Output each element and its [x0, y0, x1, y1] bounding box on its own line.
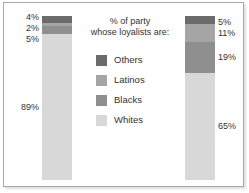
legend-swatch-latinos-icon	[96, 75, 107, 86]
bar-right-segment-blacks	[185, 42, 215, 73]
legend-swatch-whites-icon	[96, 115, 107, 126]
chart-title-line-2: whose loyalists are:	[78, 27, 182, 38]
legend-swatch-blacks-icon	[96, 95, 107, 106]
bar-left-label-whites: 89%	[21, 103, 39, 112]
bar-right-segment-whites	[185, 73, 215, 180]
chart-legend: Others Latinos Blacks Whites	[96, 50, 182, 130]
stacked-bar-right	[185, 16, 215, 180]
bar-left-segment-blacks	[42, 26, 72, 34]
legend-item-blacks[interactable]: Blacks	[96, 90, 182, 110]
legend-swatch-others-icon	[96, 55, 107, 66]
bar-right-label-blacks: 19%	[218, 53, 236, 62]
legend-label-latinos: Latinos	[114, 75, 145, 85]
bar-right-label-latinos: 11%	[218, 29, 235, 38]
bar-right-label-others: 5%	[218, 18, 231, 27]
bar-right-segment-latinos	[185, 24, 215, 42]
legend-label-whites: Whites	[114, 115, 143, 125]
legend-label-others: Others	[114, 55, 143, 65]
chart-title: % of party whose loyalists are:	[78, 16, 182, 39]
bar-left-segment-whites	[42, 34, 72, 180]
legend-label-blacks: Blacks	[114, 95, 142, 105]
bar-right-segment-others	[185, 16, 215, 24]
chart-title-line-1: % of party	[78, 16, 182, 27]
bar-right-label-whites: 65%	[218, 122, 236, 131]
bar-left-label-latinos: 2%	[26, 24, 39, 33]
legend-item-whites[interactable]: Whites	[96, 110, 182, 130]
bar-left-label-others: 4%	[26, 13, 39, 22]
legend-item-latinos[interactable]: Latinos	[96, 70, 182, 90]
legend-item-others[interactable]: Others	[96, 50, 182, 70]
bar-left-label-blacks: 5%	[26, 35, 39, 44]
chart-figure: 4% 2% 5% 89% % of party whose loyalists …	[0, 0, 249, 193]
stacked-bar-left	[42, 16, 72, 180]
